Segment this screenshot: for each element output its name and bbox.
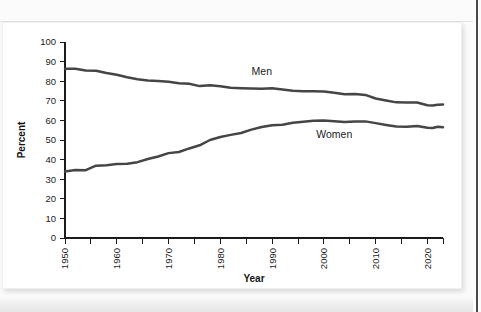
y-axis-title: Percent	[16, 121, 27, 158]
x-axis-tick-label: 1950	[59, 248, 70, 269]
series-annotation-women: Women	[316, 128, 352, 140]
y-axis-tick-label: 100	[40, 36, 56, 47]
line-chart: 0102030405060708090100195019601970198019…	[3, 23, 463, 290]
x-axis-tick-label: 2010	[370, 248, 381, 269]
y-axis-tick-label: 80	[45, 76, 56, 87]
y-axis-tick-label: 30	[45, 174, 56, 185]
x-axis-tick-label: 1960	[111, 248, 122, 269]
x-axis-tick-label: 1970	[163, 248, 174, 269]
y-axis-tick-label: 10	[45, 213, 56, 224]
y-axis-tick-label: 50	[45, 134, 56, 145]
y-axis-tick-label: 40	[45, 154, 56, 165]
series-line-women	[65, 121, 443, 172]
page-bottom-shadow	[0, 296, 481, 312]
y-axis-tick-label: 20	[45, 193, 56, 204]
figure-card: 0102030405060708090100195019601970198019…	[2, 22, 462, 289]
y-axis-tick-label: 90	[45, 56, 56, 67]
y-axis-tick-label: 70	[45, 95, 56, 106]
x-axis-tick-label: 2020	[422, 248, 433, 269]
x-axis-tick-label: 1980	[215, 248, 226, 269]
x-axis-tick-label: 1990	[267, 248, 278, 269]
series-annotation-men: Men	[252, 65, 273, 77]
page-right-border	[476, 0, 478, 312]
y-axis-tick-label: 60	[45, 115, 56, 126]
y-axis-tick-label: 0	[51, 232, 56, 243]
x-axis-title: Year	[243, 273, 264, 284]
page-background: 0102030405060708090100195019601970198019…	[0, 0, 481, 312]
x-axis-tick-label: 2000	[318, 248, 329, 269]
